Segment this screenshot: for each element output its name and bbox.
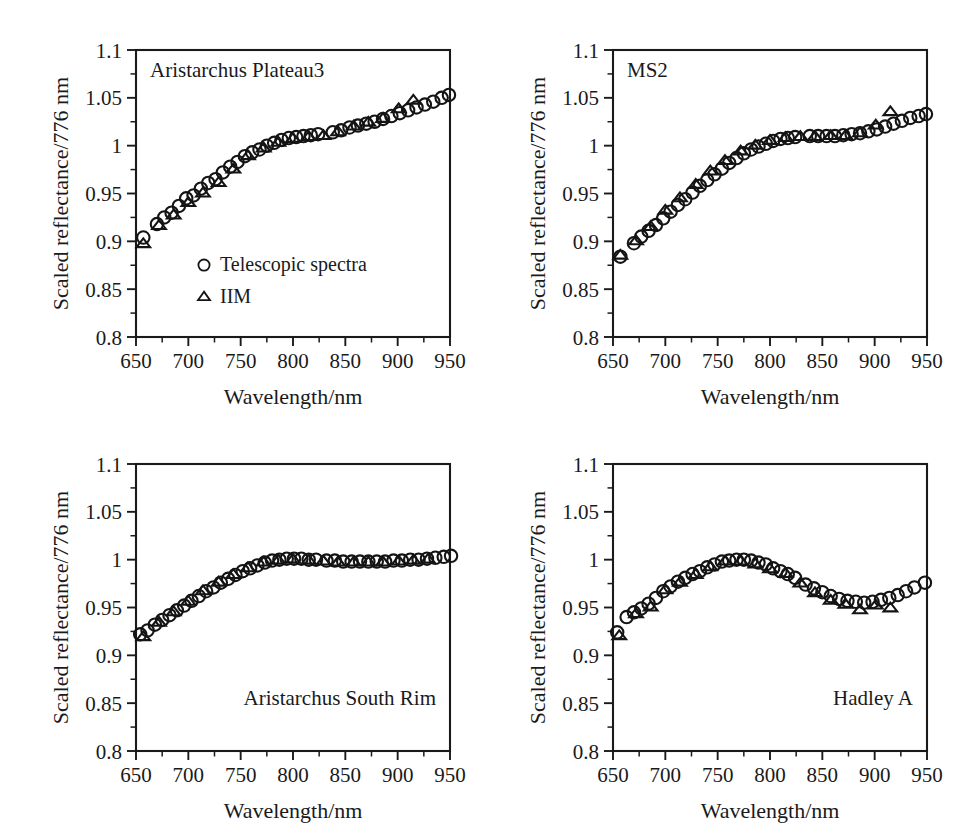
triangle-icon <box>198 292 210 301</box>
y-axis-tick-label: 0.85 <box>85 278 122 302</box>
x-axis-tick-label: 750 <box>702 763 734 787</box>
y-axis-tick-label: 1.1 <box>573 453 599 477</box>
legend-label-iim: IIM <box>220 285 251 307</box>
x-axis-tick-label: 950 <box>911 763 943 787</box>
panel-title: Hadley A <box>833 686 914 710</box>
x-axis-tick-label: 950 <box>434 349 466 373</box>
y-axis-tick-label: 1.1 <box>573 39 599 63</box>
panel-title: Aristarchus Plateau3 <box>150 58 324 82</box>
y-axis-tick-label: 0.85 <box>85 692 122 716</box>
y-axis-tick-label: 0.8 <box>96 326 122 350</box>
chart-panel-ms2: 6507007508008509009500.80.850.90.9511.05… <box>477 0 954 415</box>
y-axis-label: Scaled reflectance/776 nm <box>48 77 73 310</box>
plot-svg: 6507007508008509009500.80.850.90.9511.05… <box>0 414 477 829</box>
data-point-triangle <box>884 106 898 115</box>
x-axis-tick-label: 800 <box>754 349 786 373</box>
x-axis-tick-label: 700 <box>173 763 205 787</box>
y-axis-tick-label: 1.1 <box>96 453 122 477</box>
x-axis-tick-label: 850 <box>807 763 839 787</box>
y-axis-tick-label: 0.9 <box>96 230 122 254</box>
y-axis-tick-label: 0.9 <box>573 644 599 668</box>
y-axis-tick-label: 0.8 <box>573 740 599 764</box>
x-axis-tick-label: 800 <box>754 763 786 787</box>
data-point-triangle <box>824 130 838 139</box>
y-axis-tick-label: 0.85 <box>562 278 599 302</box>
x-axis-tick-label: 750 <box>702 349 734 373</box>
circle-icon <box>198 259 209 270</box>
x-axis-tick-label: 800 <box>277 763 309 787</box>
y-axis-tick-label: 0.8 <box>573 326 599 350</box>
x-axis-label: Wavelength/nm <box>701 798 840 823</box>
chart-panel-aristarchus-south-rim: 6507007508008509009500.80.850.90.9511.05… <box>0 414 477 829</box>
x-axis-tick-label: 950 <box>911 349 943 373</box>
y-axis-tick-label: 1.1 <box>96 39 122 63</box>
y-axis-tick-label: 1.05 <box>562 500 599 524</box>
x-axis-tick-label: 750 <box>225 349 257 373</box>
x-axis-tick-label: 700 <box>650 349 682 373</box>
y-axis-tick-label: 1 <box>589 134 600 158</box>
y-axis-label: Scaled reflectance/776 nm <box>525 491 550 724</box>
x-axis-label: Wavelength/nm <box>701 384 840 409</box>
data-point-circle <box>919 576 931 588</box>
x-axis-tick-label: 900 <box>859 349 891 373</box>
x-axis-tick-label: 650 <box>597 763 629 787</box>
series-telescopic-spectra <box>614 108 932 263</box>
y-axis-tick-label: 0.85 <box>562 692 599 716</box>
y-axis-tick-label: 1 <box>589 548 600 572</box>
x-axis-tick-label: 900 <box>382 763 414 787</box>
chart-panel-hadley-a: 6507007508008509009500.80.850.90.9511.05… <box>477 414 954 829</box>
figure-container: 6507007508008509009500.80.850.90.9511.05… <box>0 0 954 829</box>
x-axis-tick-label: 700 <box>650 763 682 787</box>
x-axis-tick-label: 850 <box>330 763 362 787</box>
x-axis-tick-label: 850 <box>807 349 839 373</box>
legend-label-telescopic-spectra: Telescopic spectra <box>220 253 367 276</box>
x-axis-tick-label: 900 <box>859 763 891 787</box>
plot-frame <box>613 50 927 337</box>
plot-svg: 6507007508008509009500.80.850.90.9511.05… <box>0 0 477 415</box>
x-axis-label: Wavelength/nm <box>224 798 363 823</box>
data-point-circle <box>883 592 895 604</box>
x-axis-tick-label: 950 <box>434 763 466 787</box>
y-axis-label: Scaled reflectance/776 nm <box>48 491 73 724</box>
y-axis-tick-label: 0.8 <box>96 740 122 764</box>
y-axis-tick-label: 1 <box>112 134 123 158</box>
plot-svg: 6507007508008509009500.80.850.90.9511.05… <box>477 0 954 415</box>
chart-legend: Telescopic spectraIIM <box>198 253 367 307</box>
y-axis-tick-label: 1.05 <box>85 500 122 524</box>
panel-title: Aristarchus South Rim <box>244 686 437 710</box>
x-axis-tick-label: 700 <box>173 349 205 373</box>
y-axis-tick-label: 0.95 <box>85 596 122 620</box>
y-axis-tick-label: 1.05 <box>85 86 122 110</box>
y-axis-tick-label: 0.95 <box>562 182 599 206</box>
series-telescopic-spectra <box>137 89 455 244</box>
x-axis-tick-label: 650 <box>120 763 152 787</box>
y-axis-tick-label: 0.9 <box>96 644 122 668</box>
x-axis-tick-label: 650 <box>120 349 152 373</box>
data-point-circle <box>887 117 899 129</box>
x-axis-tick-label: 800 <box>277 349 309 373</box>
panel-title: MS2 <box>627 58 668 82</box>
chart-panel-aristarchus-plateau3: 6507007508008509009500.80.850.90.9511.05… <box>0 0 477 415</box>
x-axis-tick-label: 650 <box>597 349 629 373</box>
y-axis-tick-label: 0.9 <box>573 230 599 254</box>
plot-svg: 6507007508008509009500.80.850.90.9511.05… <box>477 414 954 829</box>
data-point-circle <box>896 115 908 127</box>
x-axis-tick-label: 900 <box>382 349 414 373</box>
x-axis-tick-label: 850 <box>330 349 362 373</box>
x-axis-tick-label: 750 <box>225 763 257 787</box>
data-point-circle <box>904 112 916 124</box>
y-axis-tick-label: 0.95 <box>85 182 122 206</box>
y-axis-label: Scaled reflectance/776 nm <box>525 77 550 310</box>
series-iim <box>612 556 897 639</box>
y-axis-tick-label: 1 <box>112 548 123 572</box>
y-axis-tick-label: 0.95 <box>562 596 599 620</box>
x-axis-label: Wavelength/nm <box>224 384 363 409</box>
y-axis-tick-label: 1.05 <box>562 86 599 110</box>
